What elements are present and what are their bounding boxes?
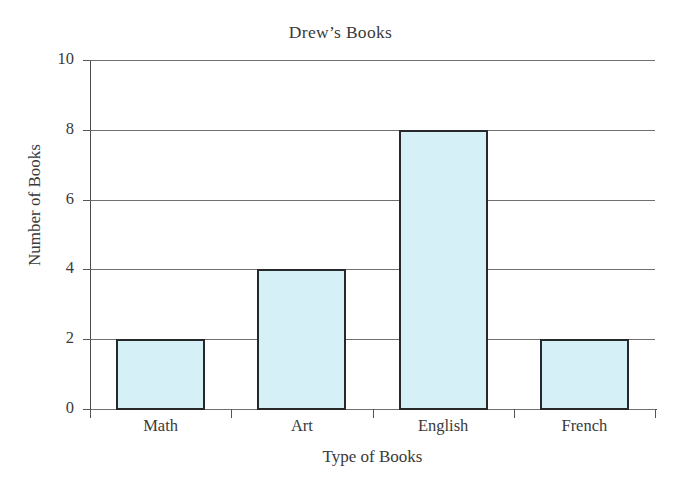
gridline	[90, 60, 655, 61]
bar	[116, 339, 205, 410]
y-axis-tick-label: 8	[0, 119, 74, 139]
x-axis-tick-label: Math	[90, 416, 231, 436]
x-axis-tick-label: English	[373, 416, 514, 436]
x-axis-tick-label: Art	[231, 416, 372, 436]
y-axis-tick-mark	[83, 269, 90, 270]
y-axis-tick-label: 2	[0, 328, 74, 348]
x-axis-tick-mark	[90, 409, 91, 418]
x-axis-tick-mark	[514, 409, 515, 418]
x-axis-tick-mark	[373, 409, 374, 418]
bar	[540, 339, 629, 410]
y-axis-tick-mark	[83, 200, 90, 201]
x-axis-tick-mark	[655, 409, 656, 418]
y-axis-tick-mark	[83, 339, 90, 340]
chart-title: Drew’s Books	[0, 22, 681, 43]
bar	[399, 130, 488, 410]
y-axis-tick-mark	[83, 60, 90, 61]
y-axis-tick-label: 6	[0, 189, 74, 209]
gridline	[90, 200, 655, 201]
y-axis-tick-label: 10	[0, 49, 74, 69]
x-axis-title: Type of Books	[90, 447, 655, 467]
bar	[257, 269, 346, 410]
gridline	[90, 130, 655, 131]
x-axis-tick-label: French	[514, 416, 655, 436]
bar-chart-figure: Drew’s Books Number of Books Type of Boo…	[0, 0, 681, 497]
y-axis-tick-label: 0	[0, 398, 74, 418]
y-axis-tick-label: 4	[0, 258, 74, 278]
plot-area	[90, 60, 655, 409]
x-axis-tick-mark	[231, 409, 232, 418]
y-axis-tick-mark	[83, 409, 90, 410]
gridline	[90, 269, 655, 270]
y-axis-tick-mark	[83, 130, 90, 131]
